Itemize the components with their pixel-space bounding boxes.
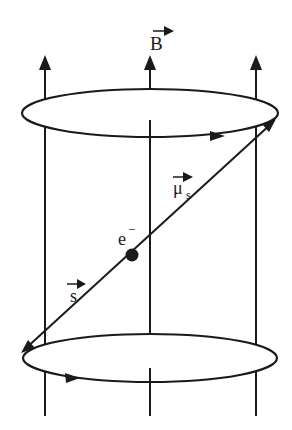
vector-arrow-icon (183, 172, 193, 182)
label-B: B (150, 26, 174, 54)
svg-text:B: B (150, 33, 163, 54)
electron-dot (126, 249, 139, 262)
arrow-up-icon (144, 55, 156, 70)
field-arrowheads (39, 55, 262, 70)
label-electron: e − (118, 222, 135, 249)
svg-text:μ: μ (173, 178, 183, 198)
spin-axis-vector (24, 123, 272, 350)
vector-arrow-icon (77, 279, 86, 289)
spin-precession-diagram: B μ s e − s (0, 0, 292, 430)
arrow-up-icon (250, 55, 262, 70)
label-mu-s: μ s (173, 172, 193, 202)
vector-arrow-icon (164, 26, 174, 36)
label-s: s (67, 279, 86, 306)
svg-text:s: s (70, 286, 77, 306)
svg-text:e: e (118, 229, 126, 249)
svg-text:−: − (128, 222, 135, 237)
svg-text:s: s (186, 188, 191, 202)
arrow-up-icon (39, 55, 51, 70)
